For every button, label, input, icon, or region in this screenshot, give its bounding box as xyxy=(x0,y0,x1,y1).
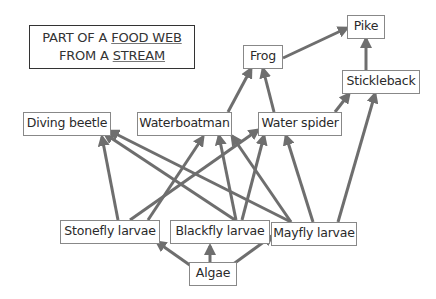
arrow-waterboatman-to-frog xyxy=(228,69,251,112)
title-underlined-food-web: FOOD WEB xyxy=(111,30,181,45)
node-stonefly-larvae: Stonefly larvae xyxy=(60,220,160,244)
node-mayfly-larvae: Mayfly larvae xyxy=(271,222,357,246)
title-line-2: FROM A STREAM xyxy=(30,47,194,65)
node-diving-beetle: Diving beetle xyxy=(23,112,111,136)
node-stickleback: Stickleback xyxy=(342,70,420,94)
arrow-mayfly-larvae-to-diving-beetle xyxy=(110,131,291,222)
title-line-1: PART OF A FOOD WEB xyxy=(30,29,194,47)
node-blackfly-larvae: Blackfly larvae xyxy=(170,220,270,244)
title-underlined-stream: STREAM xyxy=(113,48,165,63)
arrow-mayfly-larvae-to-stickleback xyxy=(338,94,375,222)
arrow-frog-to-pike xyxy=(283,28,347,58)
arrow-stonefly-larvae-to-waterboatman xyxy=(148,137,203,220)
node-pike: Pike xyxy=(347,15,385,39)
arrow-mayfly-larvae-to-water-spider xyxy=(286,136,313,222)
node-frog: Frog xyxy=(243,45,283,69)
arrow-water-spider-to-stickleback xyxy=(335,94,349,112)
diagram-title: PART OF A FOOD WEB FROM A STREAM xyxy=(29,25,195,69)
arrow-stonefly-larvae-to-diving-beetle xyxy=(102,137,118,220)
node-water-spider: Water spider xyxy=(258,112,342,136)
node-algae: Algae xyxy=(189,262,237,286)
arrow-blackfly-larvae-to-diving-beetle xyxy=(105,134,235,220)
arrow-water-spider-to-frog xyxy=(263,69,274,112)
node-waterboatman: Waterboatman xyxy=(137,112,232,136)
